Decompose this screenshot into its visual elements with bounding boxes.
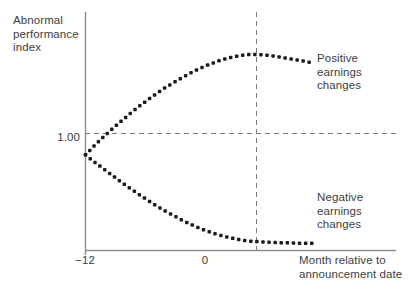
series-label-negative-earnings-changes: Negative earnings changes bbox=[317, 191, 413, 232]
series-positive-earnings-changes bbox=[84, 53, 311, 157]
chart-figure: Abnormal performance index 1.00 −12 0 Mo… bbox=[0, 0, 415, 291]
series-label-positive-earnings-changes: Positive earnings changes bbox=[317, 52, 413, 93]
y-axis-tick-label-1.00: 1.00 bbox=[52, 131, 80, 145]
series-negative-earnings-changes bbox=[84, 153, 314, 245]
x-axis-title: Month relative to announcement date bbox=[299, 254, 415, 281]
x-axis-tick-label-zero: 0 bbox=[191, 254, 219, 268]
x-axis-tick-label-minus-12: −12 bbox=[70, 254, 100, 268]
y-axis-title: Abnormal performance index bbox=[13, 14, 79, 55]
